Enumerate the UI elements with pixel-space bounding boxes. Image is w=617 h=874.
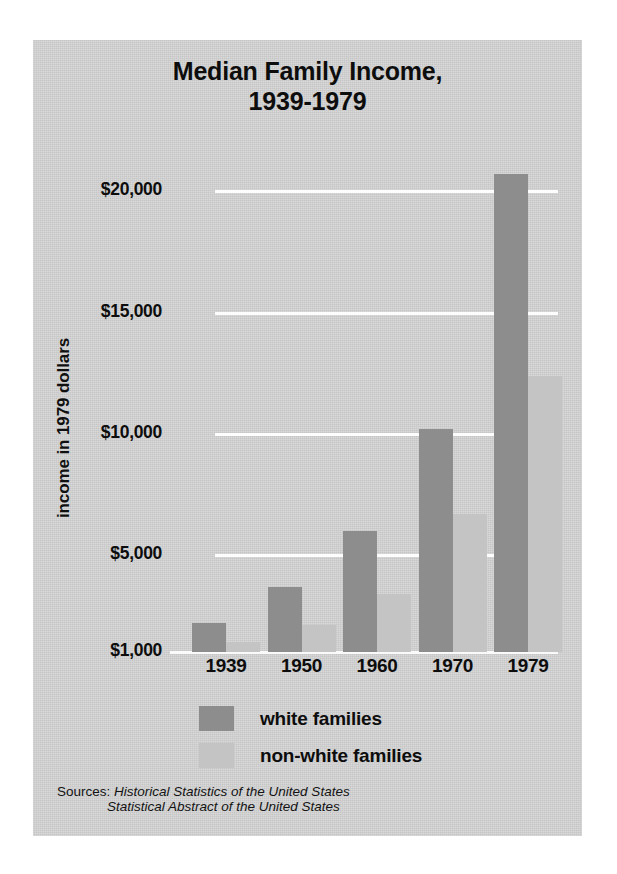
legend-item-non-white-families: non-white families	[199, 737, 422, 774]
bar	[377, 594, 411, 652]
sources-item-2: Statistical Abstract of the United State…	[57, 799, 350, 814]
sources-label: Sources:	[57, 784, 110, 799]
y-axis-tick-label: $1,000	[0, 640, 162, 661]
x-axis-tick-label: 1979	[486, 655, 570, 677]
sources-item-1: Historical Statistics of the United Stat…	[114, 784, 350, 799]
x-axis-tick-label: 1970	[411, 655, 495, 677]
legend: white families non-white families	[199, 700, 422, 774]
y-axis-tick-label: $20,000	[0, 179, 162, 200]
y-axis-tick-label: $10,000	[0, 422, 162, 443]
bar	[419, 429, 453, 652]
bar	[528, 376, 562, 652]
plot-area: $20,000$15,000$10,000$5,000$1,0001939195…	[170, 155, 558, 652]
legend-swatch-white-families	[199, 706, 234, 731]
figure: Median Family Income, 1939-1979 income i…	[0, 0, 617, 874]
bar	[494, 174, 528, 652]
legend-label-non-white-families: non-white families	[260, 745, 422, 767]
sources-note: Sources: Historical Statistics of the Un…	[57, 784, 350, 814]
legend-item-white-families: white families	[199, 700, 422, 737]
chart-title-line-1: Median Family Income,	[33, 56, 582, 86]
bar	[343, 531, 377, 652]
x-axis-tick-label: 1939	[184, 655, 268, 677]
bar	[302, 625, 336, 652]
bar	[226, 642, 260, 652]
chart-title: Median Family Income, 1939-1979	[33, 56, 582, 116]
bar	[192, 623, 226, 652]
bar	[268, 587, 302, 652]
legend-swatch-non-white-families	[199, 743, 234, 768]
y-axis-tick-label: $5,000	[0, 543, 162, 564]
x-axis-tick-label: 1960	[335, 655, 419, 677]
x-axis-tick-label: 1950	[260, 655, 344, 677]
legend-label-white-families: white families	[260, 708, 382, 730]
chart-panel: Median Family Income, 1939-1979 income i…	[33, 40, 582, 836]
chart-title-line-2: 1939-1979	[33, 86, 582, 116]
bar	[453, 514, 487, 652]
y-axis-tick-label: $15,000	[0, 301, 162, 322]
